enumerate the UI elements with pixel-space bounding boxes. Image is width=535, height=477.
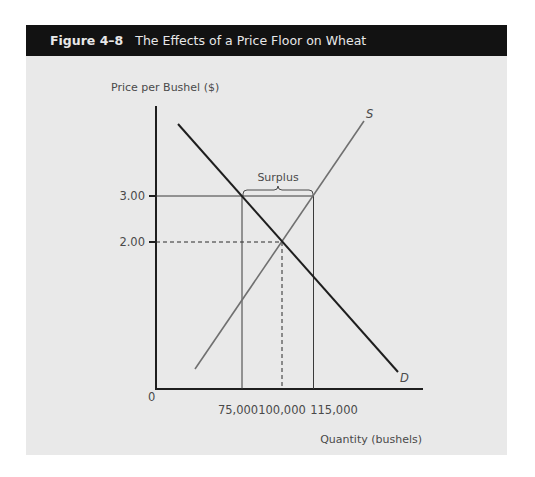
x-tick-label-75000: 75,000 xyxy=(218,403,258,417)
x-axis-label: Quantity (bushels) xyxy=(320,433,422,446)
x-tick-label-100000: 100,000 xyxy=(258,403,306,417)
surplus-brace xyxy=(243,186,313,196)
origin-label: 0 xyxy=(148,390,155,404)
supply-label: S xyxy=(366,107,373,121)
y-tick-label-200: 2.00 xyxy=(119,235,145,249)
x-tick-label-115000: 115,000 xyxy=(310,403,358,417)
supply-curve xyxy=(195,121,364,369)
demand-curve xyxy=(178,124,398,372)
price-floor-chart: Price per Bushel ($) 3.00 2.00 Surplus S… xyxy=(0,0,535,477)
demand-label: D xyxy=(400,371,409,385)
y-axis-label: Price per Bushel ($) xyxy=(111,81,219,94)
y-tick-label-300: 3.00 xyxy=(119,189,145,203)
surplus-label: Surplus xyxy=(257,171,298,184)
